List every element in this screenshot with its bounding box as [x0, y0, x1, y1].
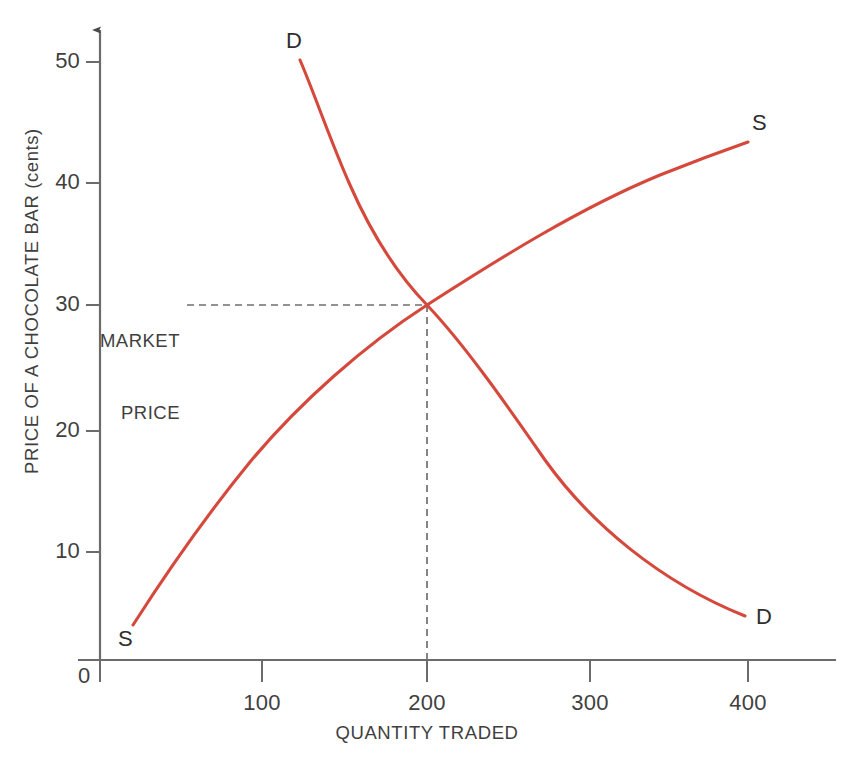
demand-curve: [300, 60, 745, 616]
y-tick-label-50: 50: [42, 48, 80, 74]
market-price-line1: MARKET: [20, 329, 180, 353]
x-tick-label-300: 300: [560, 690, 620, 716]
supply-curve: [133, 142, 748, 625]
y-tick-label-40: 40: [42, 169, 80, 195]
x-axis-title-line1: QUANTITY (thousands): [568, 769, 813, 773]
x-axis-title: QUANTITY (thousands) PER MONTH: [568, 722, 813, 773]
x-tick-label-400: 400: [718, 690, 778, 716]
demand-curve-label-bottom: D: [756, 604, 772, 630]
y-tick-label-10: 10: [42, 538, 80, 564]
x-tick-label-100: 100: [232, 690, 292, 716]
origin-label: 0: [78, 663, 90, 689]
market-price-annotation: MARKET PRICE: [20, 281, 180, 473]
demand-curve-label-top: D: [286, 28, 302, 54]
x-axis-ticks: [100, 660, 748, 682]
supply-curve-label-bottom: S: [118, 626, 133, 652]
x-tick-label-200: 200: [397, 690, 457, 716]
supply-curve-label-top: S: [752, 110, 767, 136]
quantity-traded-label: QUANTITY TRADED: [327, 722, 527, 744]
supply-demand-chart: PRICE OF A CHOCOLATE BAR (cents) 50 40 3…: [0, 0, 862, 773]
market-price-line2: PRICE: [20, 401, 180, 425]
